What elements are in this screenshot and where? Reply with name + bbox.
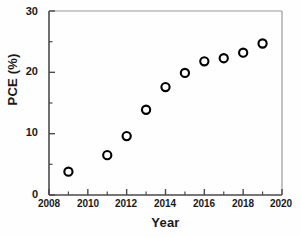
data-point: [161, 83, 169, 91]
data-point: [220, 54, 228, 62]
data-point: [181, 69, 189, 77]
data-point: [103, 151, 111, 159]
data-point: [64, 168, 72, 176]
tick-marks: [49, 11, 282, 195]
data-point: [239, 49, 247, 57]
data-point: [258, 39, 266, 47]
plot-area: [0, 0, 301, 237]
chart-figure: PCE (%) Year 30 20 10 0 2008 2010 2012 2…: [0, 0, 301, 237]
axis-spines: [49, 11, 282, 195]
data-point: [200, 57, 208, 65]
data-point: [123, 132, 131, 140]
data-point: [142, 106, 150, 114]
data-markers: [64, 39, 266, 175]
